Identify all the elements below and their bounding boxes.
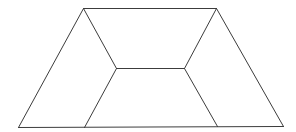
- left-edge: [19, 9, 84, 128]
- trapezoid-diagram: [0, 0, 296, 132]
- inner-bottom-left-diagonal: [85, 69, 117, 128]
- inner-top-right-diagonal: [185, 9, 217, 69]
- inner-bottom-right-diagonal: [185, 69, 218, 127]
- bottom-edge: [19, 127, 284, 128]
- inner-top-left-diagonal: [84, 9, 117, 69]
- right-edge: [217, 9, 284, 127]
- diagram-edges: [19, 9, 284, 128]
